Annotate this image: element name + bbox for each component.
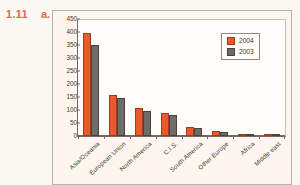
- bar-2003: [91, 45, 99, 136]
- legend-label-2003: 2003: [239, 49, 254, 56]
- bar-2004: [109, 95, 117, 136]
- bar-2004: [186, 127, 194, 136]
- y-axis-tick-mark: [77, 45, 80, 46]
- y-axis-tick-label: 200: [55, 81, 77, 87]
- x-axis-labels: Asia/OceaniaEuropean UnionNorth AmericaC…: [78, 138, 285, 185]
- bar-group: [161, 19, 177, 136]
- legend-label-2004: 2004: [239, 38, 254, 45]
- bar-2003: [143, 111, 151, 136]
- legend-swatch-2003-icon: [227, 48, 235, 56]
- y-axis: 450400350300250200150100500: [53, 19, 77, 136]
- y-axis-tick-label: 100: [55, 107, 77, 113]
- y-axis-tick-mark: [77, 58, 80, 59]
- y-axis-tick-label: 0: [55, 133, 77, 139]
- y-axis-tick-label: 250: [55, 68, 77, 74]
- y-axis-tick-label: 150: [55, 94, 77, 100]
- legend-swatch-2004-icon: [227, 37, 235, 45]
- bar-group: [264, 19, 280, 136]
- x-axis-label: C.I.S.: [162, 140, 179, 156]
- bar-2003: [169, 115, 177, 136]
- bar-group: [135, 19, 151, 136]
- y-axis-tick-label: 50: [55, 120, 77, 126]
- bar-2003: [194, 128, 202, 136]
- bar-2004: [161, 113, 169, 136]
- y-axis-tick-label: 350: [55, 42, 77, 48]
- bar-2004: [83, 33, 91, 136]
- y-axis-tick-mark: [77, 110, 80, 111]
- y-axis-tick-mark: [77, 97, 80, 98]
- scanned-page: 1.11 a. 450400350300250200150100500 Asia…: [0, 0, 300, 185]
- y-axis-tick-label: 300: [55, 55, 77, 61]
- y-axis-tick-mark: [77, 19, 80, 20]
- legend-item-2004: 2004: [227, 37, 254, 45]
- legend-item-2003: 2003: [227, 48, 254, 56]
- y-axis-tick-mark: [77, 32, 80, 33]
- x-axis-label: Africa: [239, 140, 256, 156]
- bar-group: [109, 19, 125, 136]
- chart-legend: 2004 2003: [221, 33, 260, 60]
- bar-group: [186, 19, 202, 136]
- x-axis-label: Middle east: [253, 140, 282, 167]
- y-axis-tick-mark: [77, 136, 80, 137]
- y-axis-tick-mark: [77, 84, 80, 85]
- y-axis-tick-mark: [77, 123, 80, 124]
- bar-2003: [117, 98, 125, 136]
- y-axis-tick-label: 450: [55, 16, 77, 22]
- bar-2004: [135, 108, 143, 136]
- y-axis-tick-mark: [77, 71, 80, 72]
- exercise-part-letter: a.: [41, 8, 50, 20]
- chart-panel: 450400350300250200150100500 Asia/Oceania…: [52, 10, 292, 185]
- y-axis-tick-label: 400: [55, 29, 77, 35]
- exercise-number: 1.11: [6, 8, 28, 20]
- bar-group: [83, 19, 99, 136]
